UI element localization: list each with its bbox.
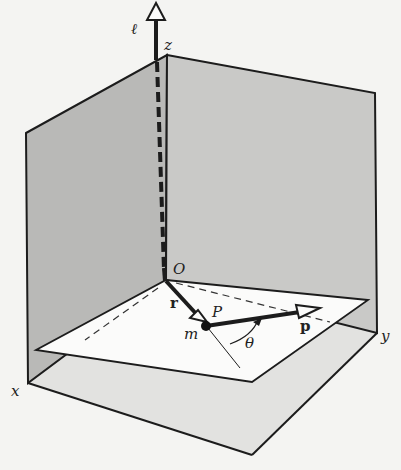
label-origin: O [173,260,185,278]
label-theta: θ [245,334,254,352]
axis-arrow-head-icon [147,3,165,20]
label-m: m [184,325,198,343]
label-p-vector: p [300,317,311,335]
diagram-canvas: ℓ z O r P m p θ y x [0,0,401,470]
label-z: z [163,36,172,54]
label-y: y [380,327,390,345]
particle-m [201,321,211,331]
label-r: r [170,294,179,312]
label-l: ℓ [131,20,137,38]
label-p-point: P [211,303,223,321]
label-x: x [11,382,20,400]
axis-line-base [164,268,165,281]
